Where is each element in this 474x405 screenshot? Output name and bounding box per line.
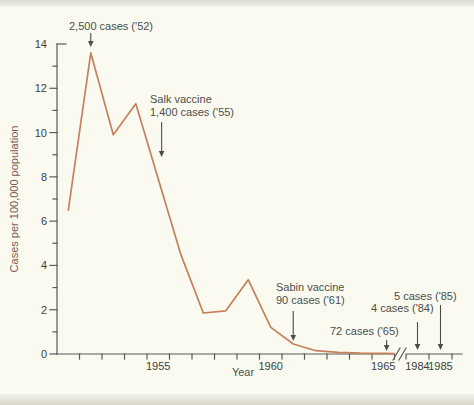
x-axis-title: Year xyxy=(200,366,286,378)
y-tick-label: 2 xyxy=(41,304,47,316)
arrowhead-down-icon xyxy=(438,344,444,350)
y-axis-title: Cases per 100,000 population xyxy=(8,99,20,299)
y-tick-label: 12 xyxy=(35,82,47,94)
annotation-text: 72 cases ('65) xyxy=(330,325,399,338)
annotation-text: 1,400 cases ('55) xyxy=(150,106,234,119)
x-tick-label: 1985 xyxy=(428,360,452,372)
annotation-salk-vaccine: Salk vaccine 1,400 cases ('55) xyxy=(150,93,234,119)
annotation-text: 2,500 cases ('52) xyxy=(69,20,153,33)
annotation-2500-cases-52: 2,500 cases ('52) xyxy=(69,20,153,33)
arrowhead-down-icon xyxy=(88,41,94,47)
arrowhead-down-icon xyxy=(290,335,296,341)
y-tick-label: 8 xyxy=(41,171,47,183)
y-tick-label: 14 xyxy=(35,38,47,50)
y-tick-label: 0 xyxy=(41,348,47,360)
y-tick-label: 6 xyxy=(41,215,47,227)
y-tick-label: 4 xyxy=(41,259,47,271)
annotation-text: Sabin vaccine xyxy=(276,281,345,294)
chart-canvas: 0246810121419551960196519841985 xyxy=(0,0,474,405)
page-background: 0246810121419551960196519841985 Cases pe… xyxy=(0,0,474,405)
arrowhead-down-icon xyxy=(415,344,421,350)
annotation-72-cases-65: 72 cases ('65) xyxy=(330,325,399,338)
annotation-sabin-vaccine: Sabin vaccine 90 cases ('61) xyxy=(276,281,345,307)
annotation-text: 90 cases ('61) xyxy=(276,294,345,307)
annotation-5-cases-85: 5 cases ('85) xyxy=(394,290,457,303)
y-tick-label: 10 xyxy=(35,127,47,139)
annotation-text: 5 cases ('85) xyxy=(394,290,457,303)
x-tick-label: 1955 xyxy=(146,360,170,372)
x-tick-label: 1965 xyxy=(371,360,395,372)
x-tick-labels: 19551960196519841985 xyxy=(146,360,453,372)
y-axis xyxy=(50,44,66,354)
arrowhead-down-icon xyxy=(384,345,390,351)
arrowhead-down-icon xyxy=(159,151,165,157)
annotation-text: Salk vaccine xyxy=(150,93,234,106)
x-tick-label: 1984 xyxy=(405,360,429,372)
annotation-4-cases-84: 4 cases ('84) xyxy=(371,302,434,315)
y-tick-labels: 02468101214 xyxy=(35,38,47,360)
annotation-text: 4 cases ('84) xyxy=(371,302,434,315)
